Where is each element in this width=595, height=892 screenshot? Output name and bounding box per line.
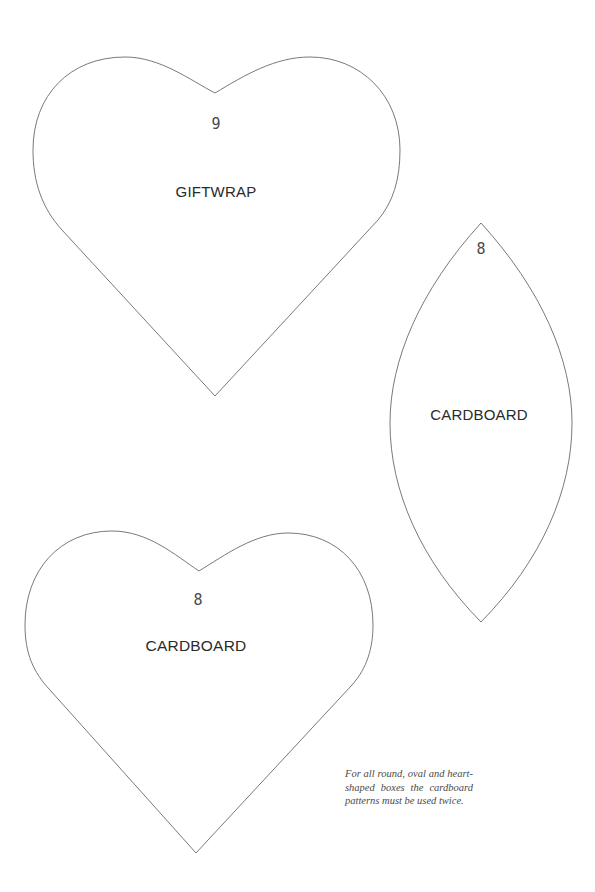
cardboard-heart-label: CARDBOARD xyxy=(146,637,247,655)
cardboard-heart-number: 8 xyxy=(193,593,202,608)
giftwrap-heart-label: GIFTWRAP xyxy=(176,183,257,200)
cardboard-heart-outline xyxy=(25,531,373,853)
usage-note: For all round, oval and heart-shaped box… xyxy=(345,767,473,808)
pattern-sheet xyxy=(0,0,595,892)
giftwrap-heart-number: 9 xyxy=(211,117,220,132)
cardboard-oval-label: CARDBOARD xyxy=(430,406,528,423)
giftwrap-heart-outline xyxy=(33,57,400,396)
cardboard-oval-number: 8 xyxy=(476,242,485,257)
